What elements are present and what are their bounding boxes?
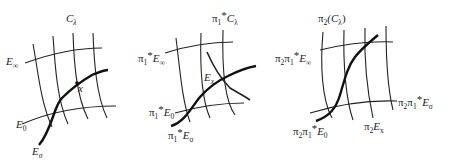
panel-1: Cλ E∞ x E0 Eσ [5, 12, 116, 160]
panel-3: π2(Cλ) π2π1*E∞ π2π1*Eσ π2π1*E0 π2Ex [275, 12, 433, 140]
e-zero-curve [22, 106, 116, 124]
label-exceptional: π2Ex [364, 120, 384, 135]
label-fiber: π1*Cλ [212, 9, 238, 27]
label-fiber: Cλ [66, 12, 77, 27]
fiber-curve [93, 33, 107, 118]
e-infinity-curve [320, 42, 393, 50]
blowup-diagram: Cλ E∞ x E0 Eσ π1*Cλ π1*E∞ Ex π1*E0 π1*Eσ [0, 0, 450, 162]
e-infinity-curve [25, 48, 102, 63]
label-point-x: x [77, 82, 83, 94]
label-exceptional: Ex [203, 71, 215, 86]
e-sigma-curve [39, 70, 108, 145]
panel-2: π1*Cλ π1*E∞ Ex π1*E0 π1*Eσ [138, 9, 256, 144]
fiber-curve [386, 26, 393, 110]
fiber-curve [322, 32, 332, 118]
label-e-infinity: E∞ [5, 55, 19, 70]
fiber-curve [73, 33, 88, 119]
e-zero-curve [316, 35, 378, 121]
label-e-sigma: π2π1*Eσ [398, 93, 433, 111]
label-e-zero: π2π1*E0 [293, 122, 328, 140]
label-e-infinity: π2π1*E∞ [275, 49, 311, 67]
label-e-infinity: π1*E∞ [138, 49, 165, 67]
label-e-sigma: Eσ [31, 145, 43, 160]
label-e-zero: π1*E0 [149, 103, 175, 121]
label-fiber: π2(Cλ) [318, 12, 346, 27]
e-sigma-curve [310, 101, 397, 113]
label-e-sigma: π1*Eσ [168, 126, 194, 144]
label-e-zero: E0 [15, 118, 27, 133]
